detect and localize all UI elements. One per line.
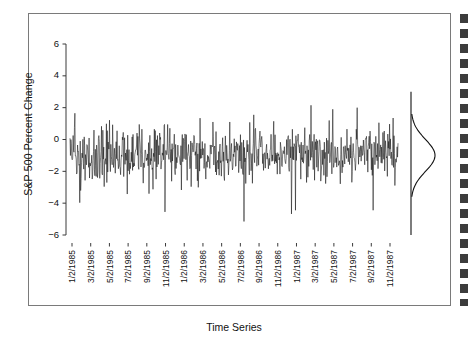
x-tick-label: 1/2/1986	[179, 250, 189, 283]
dashed-strip-icon[interactable]	[460, 14, 468, 306]
x-tick-label: 11/2/1986	[273, 250, 283, 287]
x-tick-label: 7/2/1987	[348, 250, 358, 283]
chart-canvas: 6420−2−4−6 1/2/19853/2/19855/2/19857/2/1…	[0, 0, 468, 344]
x-tick-label: 9/2/1986	[254, 250, 264, 283]
series-path	[70, 105, 398, 221]
x-tick-label: 3/2/1987	[310, 250, 320, 283]
x-tick-label: 7/2/1985	[123, 250, 133, 283]
y-tick-label: −6	[48, 229, 59, 240]
x-tick-label: 5/2/1985	[105, 250, 115, 283]
strip-cap-top	[460, 0, 468, 14]
x-tick-label: 5/2/1987	[329, 250, 339, 283]
x-tick-label: 7/2/1986	[236, 250, 246, 283]
y-tick-label: −4	[48, 197, 59, 208]
x-tick-label: 1/2/1987	[292, 250, 302, 283]
x-axis: 1/2/19853/2/19855/2/19857/2/19859/2/1985…	[67, 243, 395, 287]
density-path	[412, 114, 435, 197]
y-tick-label: 2	[54, 101, 59, 112]
y-tick-label: 6	[54, 38, 59, 49]
x-tick-label: 9/2/1987	[366, 250, 376, 283]
strip-cap-bottom	[460, 330, 468, 344]
y-axis: 6420−2−4−6	[48, 38, 66, 240]
y-tick-label: −2	[48, 165, 59, 176]
marginal-density-curve	[411, 92, 435, 235]
x-tick-label: 9/2/1985	[142, 250, 152, 283]
x-tick-label: 1/2/1985	[67, 250, 77, 283]
timeseries-line	[70, 105, 398, 221]
figure-container: S&P 500 Percent Change Time Series 6420−…	[0, 0, 468, 344]
x-tick-label: 11/2/1985	[161, 250, 171, 287]
x-tick-label: 5/2/1986	[217, 250, 227, 283]
y-tick-label: 4	[54, 69, 59, 80]
y-tick-label: 0	[54, 133, 59, 144]
x-tick-label: 3/2/1985	[86, 250, 96, 283]
x-tick-label: 3/2/1986	[198, 250, 208, 283]
x-tick-label: 11/2/1987	[385, 250, 395, 287]
